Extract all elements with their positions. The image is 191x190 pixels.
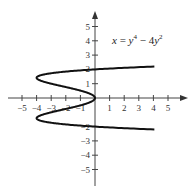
y-tick-label: 4 bbox=[86, 36, 91, 46]
y-tick-label: 5 bbox=[86, 22, 91, 32]
graph-plot: −5−4−3−2−112345−5−4−3−212345 x = y4 − 4y… bbox=[0, 0, 191, 190]
y-axis-arrow-icon bbox=[92, 11, 98, 19]
x-tick-label: −5 bbox=[17, 103, 27, 113]
x-tick-label: 4 bbox=[151, 103, 156, 113]
y-tick-label: 1 bbox=[86, 79, 91, 89]
y-tick-label: −4 bbox=[80, 150, 90, 160]
x-tick-label: 3 bbox=[137, 103, 142, 113]
y-tick-label: −3 bbox=[80, 136, 90, 146]
y-tick-label: −5 bbox=[80, 165, 90, 175]
x-tick-label: −4 bbox=[32, 103, 42, 113]
x-tick-label: 1 bbox=[107, 103, 112, 113]
x-axis-arrow-icon bbox=[180, 95, 188, 101]
x-tick-label: 2 bbox=[122, 103, 127, 113]
y-tick-label: 3 bbox=[86, 50, 91, 60]
x-tick-label: 5 bbox=[166, 103, 171, 113]
equation-label: x = y4 − 4y2 bbox=[111, 33, 163, 46]
